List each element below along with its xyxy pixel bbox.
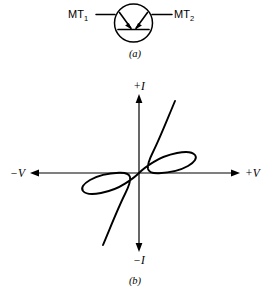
axis-label-negative-current: −I <box>133 254 146 266</box>
terminal-label-mt1-subscript: 1 <box>84 14 88 23</box>
panel-a-caption: (a) <box>129 48 142 60</box>
triac-body-circle <box>115 4 153 42</box>
voltage-axis-arrow-left <box>30 170 39 177</box>
triac-arrow-left-head <box>125 23 132 29</box>
axis-label-negative-voltage: −V <box>10 167 27 179</box>
axis-label-positive-current: +I <box>133 80 146 92</box>
panel-b-caption: (b) <box>129 275 142 287</box>
terminal-label-mt1-base: MT <box>68 8 84 20</box>
terminal-label-mt2-subscript: 2 <box>190 14 194 23</box>
terminal-label-mt2: MT2 <box>174 8 194 23</box>
terminal-label-mt1: MT1 <box>68 8 88 23</box>
current-axis-arrow-up <box>136 94 143 103</box>
panel-b-vi-characteristic: +I −I +V −V (b) <box>10 80 262 287</box>
axis-label-positive-voltage: +V <box>245 167 262 179</box>
current-axis-arrow-down <box>136 243 143 252</box>
figure-root: MT1 MT2 (a) <box>0 0 270 293</box>
triac-arrow-right-head <box>135 23 142 29</box>
figure-canvas: MT1 MT2 (a) <box>0 0 270 293</box>
terminal-label-mt2-base: MT <box>174 8 190 20</box>
voltage-axis-arrow-right <box>231 170 240 177</box>
panel-a-triac-symbol: MT1 MT2 (a) <box>68 4 194 60</box>
